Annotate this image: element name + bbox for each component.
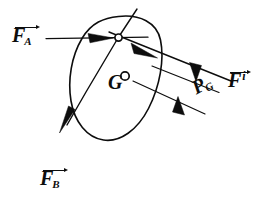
label-center-of-gravity: G — [108, 72, 122, 92]
force-b-line-group — [60, 106, 76, 133]
force-a-vector-bar — [15, 27, 37, 28]
pivot-node-circle — [115, 34, 122, 41]
label-force-a: FA — [12, 25, 32, 47]
force-b-vector-arrow-tip — [64, 168, 68, 172]
force-b-vector-bar — [43, 170, 65, 171]
free-body-diagram: FA FB Fi PG G — [0, 0, 269, 215]
label-force-b: FB — [40, 168, 60, 190]
body-axis-line-group — [67, 9, 137, 125]
force-a-subscript: A — [24, 35, 31, 47]
force-a-arrowhead — [88, 33, 114, 42]
force-b-arrowhead — [60, 106, 76, 133]
body-axis-line — [67, 9, 137, 125]
label-force-i: Fi — [228, 70, 246, 90]
force-i-vector-bar — [230, 72, 248, 73]
force-a-vector-arrow-tip — [36, 25, 40, 29]
force-i-vector-arrow-tip — [247, 70, 251, 74]
center-of-gravity-symbol: G — [108, 71, 122, 93]
force-b-subscript: B — [52, 178, 59, 190]
